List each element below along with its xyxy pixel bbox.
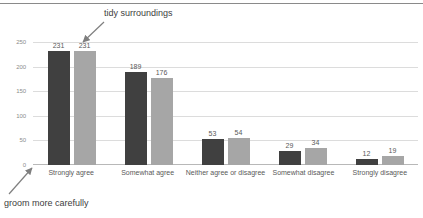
bar-somewhat-disagree-tidy: 34 <box>305 148 327 165</box>
annotation-groom-more-carefully: groom more carefully <box>4 198 89 209</box>
bar-group-strongly-disagree: 12 19 <box>341 42 418 165</box>
x-label-strongly-disagree: Strongly disagree <box>342 168 418 177</box>
bar-value-label: 53 <box>209 130 217 138</box>
annotation-tidy-surroundings: tidy surroundings <box>104 8 173 19</box>
bar-value-label: 189 <box>130 63 142 71</box>
x-label-neither-agree-or-disagree: Neither agree or disagree <box>186 168 265 177</box>
bar-somewhat-agree-tidy: 176 <box>151 78 173 165</box>
bar-strongly-disagree-groom: 12 <box>356 159 378 165</box>
bar-strongly-disagree-tidy: 19 <box>382 156 404 165</box>
bar-group-somewhat-agree: 189 176 <box>110 42 187 165</box>
x-label-somewhat-disagree: Somewhat disagree <box>265 168 341 177</box>
y-tick-label-50: 50 <box>0 137 26 143</box>
bar-neither-groom: 53 <box>202 139 224 165</box>
bar-somewhat-agree-groom: 189 <box>125 72 147 165</box>
bar-groups: 231 231 189 176 53 <box>33 42 418 165</box>
bar-value-label: 19 <box>389 147 397 155</box>
bar-chart: 250 200 150 100 50 0 231 231 189 <box>0 0 423 218</box>
y-tick-label-100: 100 <box>0 113 26 119</box>
x-label-somewhat-agree: Somewhat agree <box>109 168 185 177</box>
bar-group-strongly-agree: 231 231 <box>33 42 110 165</box>
bar-value-label: 231 <box>53 42 65 50</box>
top-divider-rule <box>0 3 423 4</box>
bar-value-label: 12 <box>363 150 371 158</box>
y-tick-label-200: 200 <box>0 64 26 70</box>
annotation-arrow-to-groom-bar <box>6 165 38 197</box>
bar-value-label: 29 <box>286 142 294 150</box>
bar-strongly-agree-tidy: 231 <box>74 51 96 165</box>
bar-neither-tidy: 54 <box>228 138 250 165</box>
x-axis-category-labels: Strongly agree Somewhat agree Neither ag… <box>33 168 418 177</box>
y-tick-label-150: 150 <box>0 88 26 94</box>
bar-group-somewhat-disagree: 29 34 <box>264 42 341 165</box>
bar-value-label: 34 <box>312 139 320 147</box>
bar-value-label: 54 <box>235 129 243 137</box>
bar-somewhat-disagree-groom: 29 <box>279 151 301 165</box>
x-label-strongly-agree: Strongly agree <box>33 168 109 177</box>
y-tick-label-250: 250 <box>0 39 26 45</box>
bar-value-label: 176 <box>156 69 168 77</box>
annotation-arrow-to-tidy-bar <box>78 20 106 46</box>
bar-group-neither-agree-or-disagree: 53 54 <box>187 42 264 165</box>
bar-strongly-agree-groom: 231 <box>48 51 70 165</box>
